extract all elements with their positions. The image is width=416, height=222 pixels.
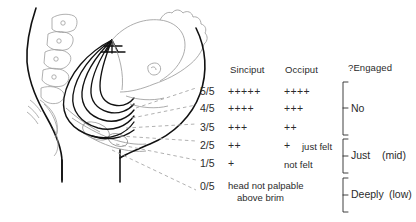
descent-table: Sinciput Occiput ?Engaged 5/5 +++++ ++++… <box>196 60 416 222</box>
vertebrae-sacrum <box>27 14 77 156</box>
group-label-just: Just <box>351 149 370 161</box>
group-label-deeply: Deeply <box>351 188 384 200</box>
group-label-no: No <box>351 102 364 114</box>
group-qualifier-low: (low) <box>389 188 412 200</box>
leader-lines <box>112 88 196 190</box>
fetal-face-profile <box>112 10 207 108</box>
figure-container: Sinciput Occiput ?Engaged 5/5 +++++ ++++… <box>0 0 416 222</box>
maternal-outline <box>27 8 62 182</box>
group-qualifier-mid: (mid) <box>382 149 406 161</box>
